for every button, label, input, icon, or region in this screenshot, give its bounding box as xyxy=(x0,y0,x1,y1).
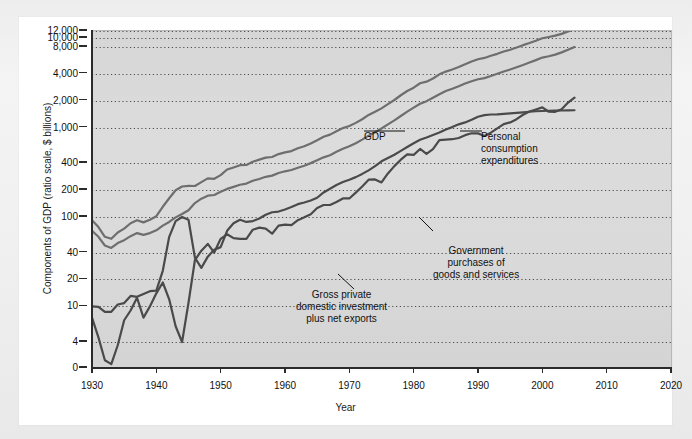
figure-card: Components of GDP (ratio scale, $ billio… xyxy=(19,17,672,425)
annotation-leader-2 xyxy=(419,217,433,231)
series-annotation-pce: Personal consumption expenditures xyxy=(481,131,538,167)
series-annotation-government: Government purchases of goods and servic… xyxy=(433,245,519,281)
series-annotation-investment: Gross private domestic investment plus n… xyxy=(296,289,387,325)
y-tick-mark xyxy=(79,340,87,342)
y-tick-mark xyxy=(79,188,87,190)
x-tick-label: 1980 xyxy=(403,380,425,391)
y-tick-label: 12,000 xyxy=(47,25,78,36)
x-tick-label: 2000 xyxy=(531,380,553,391)
y-tick-label: 400 xyxy=(61,157,78,168)
y-tick-label: 2,000 xyxy=(53,94,78,105)
y-tick-mark xyxy=(79,251,87,253)
y-tick-mark xyxy=(79,126,87,128)
y-tick-mark xyxy=(79,36,87,38)
y-tick-mark xyxy=(79,45,87,47)
y-tick-label: 40 xyxy=(67,246,78,257)
y-tick-label: 10 xyxy=(67,300,78,311)
y-tick-label: 1,000 xyxy=(53,121,78,132)
y-axis-tick-labels: 041020401002004001,0002,0004,0008,00010,… xyxy=(19,30,87,367)
y-tick-label: 4 xyxy=(72,336,78,347)
y-tick-label: 4,000 xyxy=(53,67,78,78)
x-tick-label: 1990 xyxy=(467,380,489,391)
y-tick-mark xyxy=(79,215,87,217)
x-tick-label: 2020 xyxy=(660,380,682,391)
x-tick-label: 1960 xyxy=(274,380,296,391)
y-tick-mark xyxy=(79,99,87,101)
x-tick-label: 2010 xyxy=(596,380,618,391)
y-tick-label: 20 xyxy=(67,273,78,284)
x-tick-label: 1930 xyxy=(81,380,103,391)
y-tick-mark xyxy=(79,29,87,31)
x-tick-label: 1970 xyxy=(338,380,360,391)
y-tick-mark xyxy=(79,161,87,163)
y-tick-mark xyxy=(79,278,87,280)
x-tick-label: 1940 xyxy=(145,380,167,391)
y-tick-label: 200 xyxy=(61,184,78,195)
x-tick-label: 1950 xyxy=(210,380,232,391)
x-axis-tick-labels: 1930194019501960197019801990200020102020 xyxy=(92,372,671,388)
x-axis-title: Year xyxy=(19,402,672,413)
annotation-leader-3 xyxy=(338,274,354,289)
x-axis-line xyxy=(91,367,671,369)
figure-inner: Components of GDP (ratio scale, $ billio… xyxy=(19,17,672,425)
y-tick-mark xyxy=(79,72,87,74)
y-tick-label: 100 xyxy=(61,210,78,221)
y-axis-line xyxy=(91,30,93,368)
y-tick-mark xyxy=(79,305,87,307)
y-tick-mark xyxy=(79,366,87,368)
series-annotation-gdp: GDP xyxy=(364,131,386,143)
y-tick-label: 0 xyxy=(72,362,78,373)
